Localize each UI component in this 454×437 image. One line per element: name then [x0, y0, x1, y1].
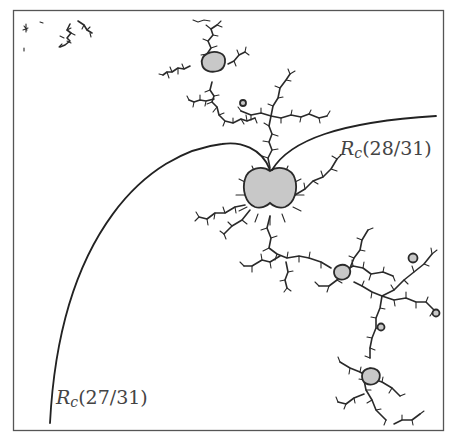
external-ray-27-31: [50, 143, 270, 423]
figure-frame: [14, 11, 444, 431]
fractal-upper-component: [159, 20, 257, 126]
component-blob-lower-3: [362, 368, 380, 384]
fractal-figure: Rc(28/31) Rc(27/31): [0, 0, 454, 437]
component-blob-upper: [202, 52, 225, 72]
fractal-lower-branches: [240, 216, 440, 425]
component-blob-lower-2: [409, 254, 418, 263]
component-blob-main: [244, 168, 296, 208]
ray-label-27-31: Rc(27/31): [55, 386, 148, 410]
fractal-fragment-top-left: [23, 21, 92, 51]
component-blob-lower-1: [334, 265, 350, 280]
ray-label-28-31: Rc(28/31): [339, 137, 432, 161]
